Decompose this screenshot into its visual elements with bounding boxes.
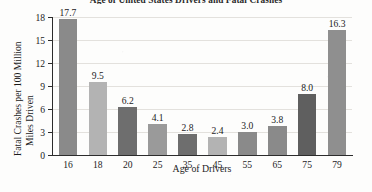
y-tick-mark (48, 40, 52, 41)
bar-rect (268, 126, 287, 155)
bar[interactable]: 9.5 (89, 82, 108, 155)
bar[interactable]: 3.0 (238, 132, 257, 155)
bar-chart-figure: Age of United States Drivers and Fatal C… (0, 0, 372, 192)
y-tick-label: 12 (35, 58, 45, 69)
bar[interactable]: 8.0 (298, 94, 317, 155)
bar[interactable]: 4.1 (148, 124, 167, 155)
bar[interactable]: 6.2 (118, 107, 137, 155)
bar[interactable]: 3.8 (268, 126, 287, 155)
y-tick-mark (48, 86, 52, 87)
bar[interactable]: 17.7 (59, 19, 78, 155)
bar-rect (178, 134, 197, 155)
bar-rect (298, 94, 317, 155)
y-tick-mark (48, 155, 52, 156)
bar-value-label: 9.5 (92, 70, 104, 81)
bar-value-label: 4.1 (152, 112, 164, 123)
bar-rect (89, 82, 108, 155)
bar-value-label: 2.4 (211, 125, 223, 136)
y-axis-label-line-1: Fatal Crashes per 100 Million (12, 41, 23, 156)
y-tick-label: 3 (40, 127, 45, 138)
bar-rect (59, 19, 78, 155)
bar-value-label: 3.8 (271, 114, 283, 125)
y-tick-label: 6 (40, 104, 45, 115)
bar-rect (148, 124, 167, 155)
plot-area: 0369121518 17.79.56.24.12.82.43.03.88.01… (52, 17, 352, 155)
y-axis-label-line-2: Miles Driven (24, 95, 35, 146)
bar[interactable]: 16.3 (328, 30, 347, 155)
y-tick-mark (48, 132, 52, 133)
y-tick-mark (48, 109, 52, 110)
bar-series: 17.79.56.24.12.82.43.03.88.016.3 (53, 17, 352, 155)
bar-rect (208, 137, 227, 155)
chart-title: Age of United States Drivers and Fatal C… (0, 0, 372, 4)
y-tick-label: 9 (40, 81, 45, 92)
bar[interactable]: 2.4 (208, 137, 227, 155)
bar-value-label: 2.8 (182, 122, 194, 133)
x-axis-label: Age of Drivers (52, 163, 352, 174)
bar-rect (328, 30, 347, 155)
bar-value-label: 17.7 (60, 7, 77, 18)
y-axis-label: Fatal Crashes per 100 Million Miles Driv… (0, 6, 30, 156)
y-tick-mark (48, 17, 52, 18)
y-tick-mark (48, 63, 52, 64)
bar-value-label: 8.0 (301, 82, 313, 93)
bar[interactable]: 2.8 (178, 134, 197, 155)
x-axis-line (52, 155, 353, 156)
bar-rect (118, 107, 137, 155)
bar-value-label: 3.0 (241, 120, 253, 131)
y-tick-label: 15 (35, 35, 45, 46)
y-tick-label: 0 (40, 150, 45, 161)
bar-value-label: 16.3 (329, 18, 346, 29)
bar-value-label: 6.2 (122, 95, 134, 106)
y-tick-label: 18 (35, 12, 45, 23)
bar-rect (238, 132, 257, 155)
